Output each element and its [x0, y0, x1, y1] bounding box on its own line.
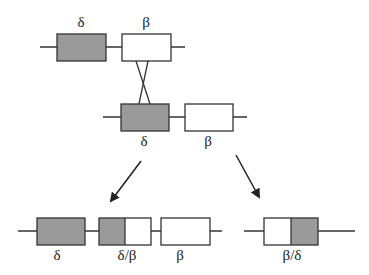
middle-delta-gene-box	[121, 104, 169, 131]
top-beta-label: β	[142, 14, 150, 30]
top-chromosome: δ β	[40, 14, 185, 61]
product-left-chromosome: δ δ/β β	[18, 218, 222, 263]
top-delta-gene-box	[57, 34, 106, 61]
arrow-left-icon	[111, 161, 141, 201]
product-left-fusion-label: δ/β	[118, 247, 137, 263]
arrow-right-icon	[236, 155, 259, 197]
product-left-delta-label: δ	[53, 247, 60, 263]
product-right-chromosome: β/δ	[244, 218, 355, 263]
product-right-fusion-gene-box	[264, 218, 318, 245]
middle-beta-gene-box	[185, 104, 233, 131]
product-right-fusion-label: β/δ	[283, 247, 302, 263]
unequal-crossover-diagram: δ β δ β	[0, 0, 369, 275]
top-beta-gene-box	[122, 34, 171, 61]
product-left-delta-gene-box	[37, 218, 85, 245]
middle-beta-label: β	[204, 133, 212, 149]
top-delta-label: δ	[77, 14, 84, 30]
product-left-fusion-gene-box	[99, 218, 151, 245]
product-left-beta-label: β	[176, 247, 184, 263]
product-left-beta-gene-box	[161, 218, 210, 245]
middle-chromosome: δ β	[103, 104, 247, 149]
crossover-lines	[136, 61, 150, 104]
middle-delta-label: δ	[140, 133, 147, 149]
